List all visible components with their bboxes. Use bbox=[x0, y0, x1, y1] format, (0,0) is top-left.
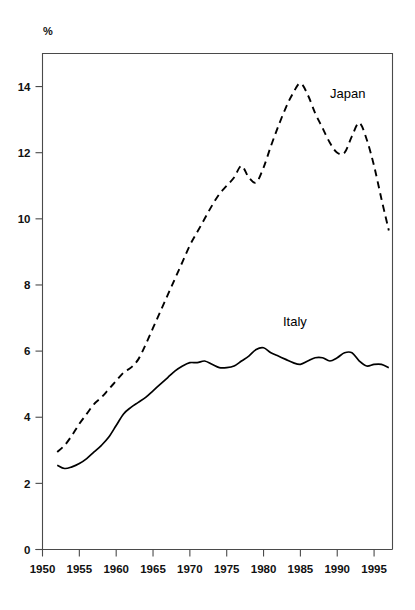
x-tick-label: 1975 bbox=[214, 563, 240, 575]
y-tick-label: 10 bbox=[18, 213, 31, 225]
y-axis-ticks: 02468101214 bbox=[18, 81, 43, 556]
y-tick-label: 2 bbox=[24, 478, 30, 490]
x-tick-label: 1960 bbox=[103, 563, 129, 575]
y-axis-unit-label: % bbox=[43, 25, 53, 37]
series-line-japan bbox=[57, 83, 389, 452]
x-tick-label: 1965 bbox=[140, 563, 166, 575]
x-tick-label: 1955 bbox=[67, 563, 93, 575]
plot-border bbox=[43, 54, 393, 550]
data-series-group bbox=[57, 83, 389, 468]
x-tick-label: 1985 bbox=[288, 563, 314, 575]
x-tick-label: 1995 bbox=[361, 563, 387, 575]
y-tick-label: 12 bbox=[18, 147, 31, 159]
y-tick-label: 14 bbox=[18, 81, 31, 93]
plot-frame bbox=[36, 54, 393, 550]
x-tick-label: 1950 bbox=[30, 563, 56, 575]
x-tick-label: 1980 bbox=[251, 563, 277, 575]
series-line-italy bbox=[57, 348, 389, 469]
y-tick-label: 6 bbox=[24, 345, 30, 357]
series-label-italy: Italy bbox=[283, 314, 307, 329]
y-tick-label: 8 bbox=[24, 279, 31, 291]
x-tick-label: 1970 bbox=[177, 563, 203, 575]
series-label-japan: Japan bbox=[330, 86, 365, 101]
x-tick-label: 1990 bbox=[324, 563, 350, 575]
x-axis-ticks: 1950195519601965197019751980198519901995 bbox=[30, 550, 388, 575]
chart-figure: % Japan Italy 02468101214 19501955196019… bbox=[0, 0, 415, 610]
y-tick-label: 0 bbox=[24, 544, 30, 556]
y-tick-label: 4 bbox=[24, 411, 31, 423]
